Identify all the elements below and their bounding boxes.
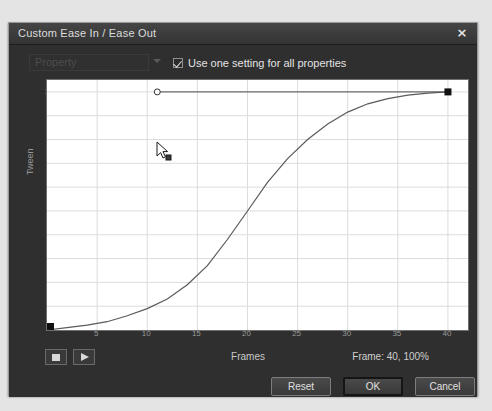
reset-button[interactable]: Reset [271,377,331,396]
curve-plot-area[interactable] [46,79,469,331]
dialog-footer: Reset OK Cancel [9,377,477,397]
curve-svg[interactable] [47,80,468,330]
dialog-title: Custom Ease In / Ease Out [18,27,156,39]
transport-row: Frames Frame: 40, 100% [27,349,469,369]
gridlines [47,80,468,330]
frame-readout: Frame: 40, 100% [352,351,429,362]
x-tick-20: 20 [242,329,251,338]
cancel-button[interactable]: Cancel [415,377,475,396]
dialog-titlebar[interactable]: Custom Ease In / Ease Out × [9,23,477,45]
frame-readout-percent: 100% [403,351,429,362]
close-icon[interactable]: × [453,25,471,41]
x-axis-tick-labels: 510152025303540 [46,329,469,345]
x-tick-35: 35 [392,329,401,338]
dialog-body: Property Use one setting for all propert… [9,45,477,397]
end-anchor[interactable] [444,88,451,95]
custom-ease-dialog: Custom Ease In / Ease Out × Property Use… [8,22,478,396]
x-tick-30: 30 [342,329,351,338]
control-point[interactable] [154,89,160,95]
x-tick-10: 10 [142,329,151,338]
frame-readout-frame: 40, [387,351,401,362]
page-root: Custom Ease In / Ease Out × Property Use… [0,0,492,411]
ease-graph: Tween 10%20%30%40%50%60%70%80%90%100% 51… [27,79,469,345]
chevron-down-icon[interactable] [153,59,161,63]
property-row: Property Use one setting for all propert… [21,53,467,73]
use-one-setting-label: Use one setting for all properties [188,57,346,69]
x-tick-15: 15 [192,329,201,338]
x-tick-40: 40 [442,329,451,338]
y-axis-title: Tween [25,148,35,175]
checkbox-indicator[interactable] [173,58,183,68]
use-one-setting-checkbox[interactable]: Use one setting for all properties [173,54,346,71]
property-dropdown-label: Property [35,56,77,68]
frame-readout-label: Frame: [352,351,384,362]
ok-button[interactable]: OK [343,377,403,396]
x-tick-5: 5 [94,329,98,338]
x-tick-25: 25 [292,329,301,338]
